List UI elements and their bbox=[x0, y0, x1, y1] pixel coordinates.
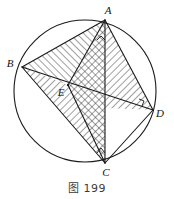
point-label-B: B bbox=[7, 57, 14, 69]
point-label-A: A bbox=[104, 4, 112, 16]
point-label-E: E bbox=[57, 86, 65, 98]
figure-caption: 图 199 bbox=[0, 179, 174, 195]
hatched-regions bbox=[22, 20, 153, 163]
point-label-D: D bbox=[155, 107, 164, 119]
geometry-figure: A B C D E 图 199 bbox=[0, 0, 174, 199]
geometry-diagram: A B C D E bbox=[0, 0, 174, 199]
vertex-dot-E bbox=[67, 84, 69, 86]
chord-CD bbox=[105, 110, 153, 163]
vertex-dots bbox=[67, 84, 69, 86]
point-label-C: C bbox=[102, 166, 110, 178]
